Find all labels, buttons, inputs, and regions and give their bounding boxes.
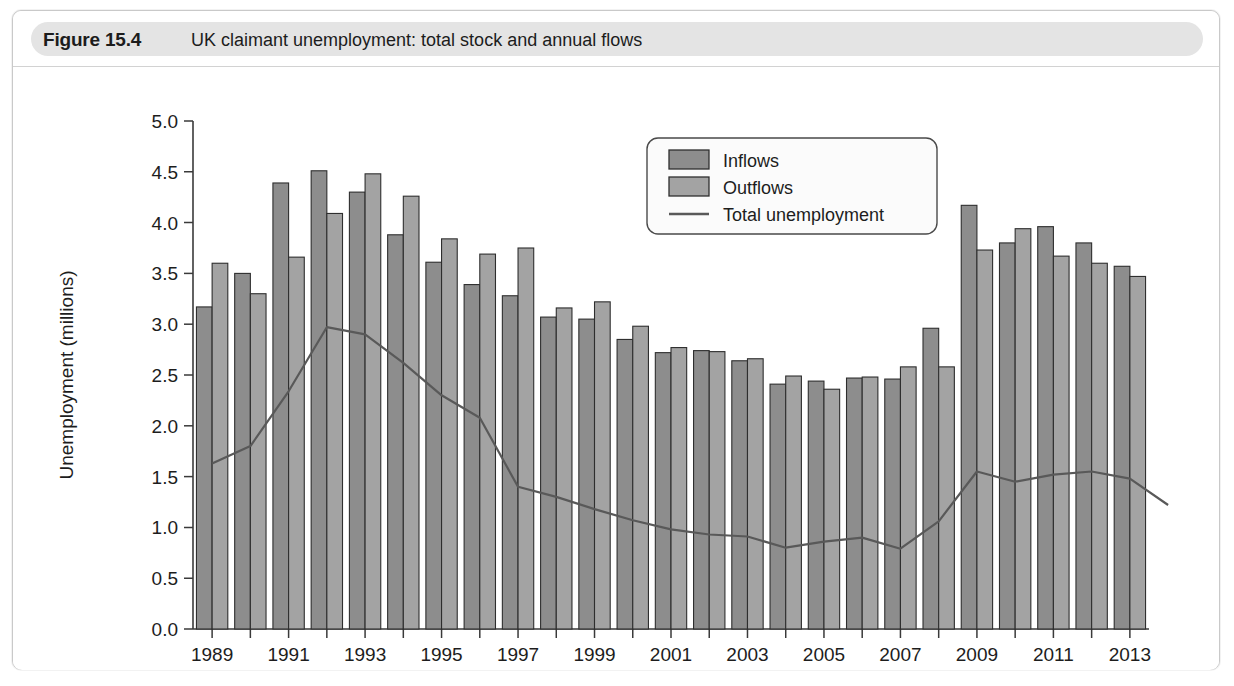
bar-inflow [579,319,595,629]
bar-inflow [349,192,365,629]
bar-inflow [732,361,748,629]
x-tick-label: 2001 [650,644,692,665]
bar-inflow [617,339,633,629]
chart-legend: InflowsOutflowsTotal unemployment [647,138,937,234]
bar-inflow [273,183,289,629]
figure-header: Figure 15.4 UK claimant unemployment: to… [13,11,1219,67]
bar-outflow [747,359,763,629]
y-tick-label: 3.0 [152,314,178,335]
legend-label: Total unemployment [723,205,884,225]
bar-outflow [939,367,955,629]
legend-label: Outflows [723,178,793,198]
bar-inflow [388,235,404,629]
legend-swatch-inflows [669,150,709,169]
bar-outflow [709,352,725,629]
bar-outflow [977,250,993,629]
unemployment-chart: 0.00.51.01.52.02.53.03.54.04.55.0 198919… [13,68,1219,669]
bar-inflow [655,353,671,629]
bar-outflow [289,257,305,629]
bar-inflow [961,205,977,629]
x-tick-label: 2011 [1033,644,1074,665]
bar-outflow [518,248,534,629]
bar-outflow [365,174,381,629]
bar-outflow [1053,256,1069,629]
legend-swatch-outflows [669,177,709,196]
bar-inflow [923,328,939,629]
x-tick-label: 1989 [191,644,233,665]
y-tick-label: 1.0 [152,517,178,538]
x-tick-label: 1997 [497,644,539,665]
bar-inflow [426,262,442,629]
bar-outflow [900,367,916,629]
figure-title: UK claimant unemployment: total stock an… [191,30,642,51]
x-tick-label: 2003 [726,644,768,665]
x-tick-label: 1995 [420,644,462,665]
y-axis: 0.00.51.01.52.02.53.03.54.04.55.0 [152,111,193,640]
legend-item: Inflows [669,150,779,171]
bar-inflow [770,384,786,629]
x-tick-label: 2007 [879,644,921,665]
bar-inflow [847,378,863,629]
x-tick-label: 1993 [344,644,386,665]
bar-series-group [196,171,1145,629]
y-tick-label: 2.5 [152,365,178,386]
bar-inflow [1114,266,1130,629]
bar-outflow [1015,229,1031,629]
x-tick-label: 2005 [803,644,845,665]
bar-inflow [311,171,327,629]
x-axis: 1989199119931995199719992001200320052007… [191,629,1151,665]
bar-inflow [885,379,901,629]
bar-outflow [786,376,802,629]
bar-outflow [862,377,878,629]
y-tick-label: 5.0 [152,111,178,132]
bar-outflow [633,326,649,629]
y-tick-label: 0.0 [152,619,178,640]
bar-outflow [824,389,840,629]
bar-inflow [1076,243,1092,629]
bar-outflow [556,308,572,629]
x-tick-label: 2009 [956,644,998,665]
x-tick-label: 1999 [573,644,615,665]
bar-outflow [671,348,687,629]
bar-outflow [1130,276,1146,629]
figure-card: Figure 15.4 UK claimant unemployment: to… [12,10,1220,670]
chart-plot-region: 0.00.51.01.52.02.53.03.54.04.55.0 198919… [13,68,1219,670]
x-tick-label: 1991 [267,644,309,665]
bar-outflow [595,302,611,629]
x-tick-label: 2013 [1109,644,1151,665]
bar-outflow [403,196,419,629]
legend-label: Inflows [723,151,779,171]
y-tick-label: 1.5 [152,467,178,488]
legend-item: Outflows [669,177,793,198]
bar-outflow [327,213,343,629]
figure-number: Figure 15.4 [43,29,141,51]
y-axis-title: Unemployment (millions) [56,270,77,479]
bar-inflow [464,285,480,629]
bar-inflow [808,381,824,629]
bar-inflow [999,243,1015,629]
y-tick-label: 3.5 [152,263,178,284]
bar-inflow [541,317,557,629]
y-tick-label: 0.5 [152,568,178,589]
bar-outflow [442,239,458,629]
y-tick-label: 2.0 [152,416,178,437]
y-tick-label: 4.5 [152,162,178,183]
bar-outflow [1092,263,1108,629]
bar-inflow [196,307,212,629]
bar-inflow [694,351,710,629]
bar-inflow [1038,227,1054,629]
bar-outflow [250,294,266,629]
y-tick-label: 4.0 [152,213,178,234]
bar-outflow [212,263,228,629]
